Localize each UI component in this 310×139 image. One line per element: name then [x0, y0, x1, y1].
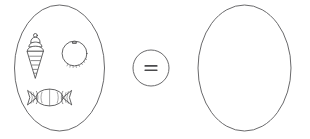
ice-cream-cone-icon[interactable]: [27, 34, 43, 79]
left-set-ellipse[interactable]: [15, 5, 105, 131]
equals-bar-bottom: [145, 69, 158, 71]
operator-circle[interactable]: [133, 50, 169, 86]
worksheet-canvas: = 3 0 empty: [0, 0, 310, 139]
equals-bar-top: [145, 65, 158, 67]
round-candy-icon[interactable]: [62, 41, 87, 68]
operator-group[interactable]: [133, 50, 169, 86]
right-set-group[interactable]: [198, 5, 291, 131]
left-set-group[interactable]: [15, 5, 105, 131]
right-set-ellipse[interactable]: [198, 5, 291, 131]
diagram-root: [0, 0, 310, 139]
wrapped-candy-icon[interactable]: [28, 89, 72, 106]
